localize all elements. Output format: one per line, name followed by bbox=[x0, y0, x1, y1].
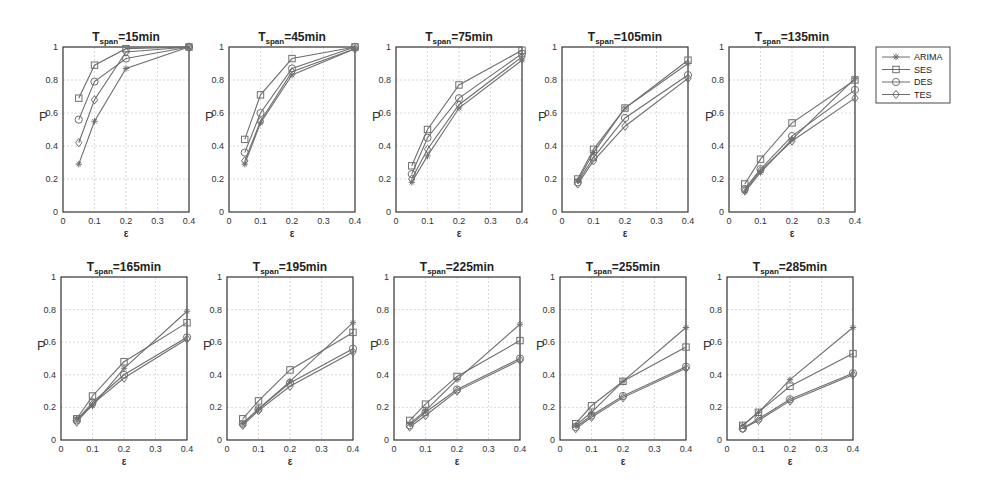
x-tick-label: 0.2 bbox=[617, 444, 630, 454]
y-tick-label: 1 bbox=[552, 42, 557, 52]
series-tes bbox=[575, 74, 692, 188]
y-tick-label: 0.2 bbox=[45, 174, 58, 184]
y-tick-label: 0.4 bbox=[709, 370, 722, 380]
y-tick-label: 0 bbox=[217, 435, 222, 445]
figure-grid: 00.10.20.30.400.20.40.60.81PεTspan=15min… bbox=[0, 0, 991, 495]
y-tick-label: 0.4 bbox=[43, 370, 56, 380]
y-tick-label: 0.8 bbox=[709, 305, 722, 315]
subplot-title: Tspan=135min bbox=[755, 30, 829, 46]
y-tick-label: 0.2 bbox=[209, 402, 222, 412]
series-arima bbox=[575, 60, 692, 184]
y-tick-label: 0 bbox=[552, 207, 557, 217]
series-line bbox=[77, 311, 187, 419]
series-des bbox=[572, 363, 689, 431]
series-arima bbox=[242, 45, 359, 167]
y-tick-label: 0.2 bbox=[709, 402, 722, 412]
x-tick-label: 0.2 bbox=[619, 216, 632, 226]
series-arima bbox=[407, 321, 524, 427]
y-tick-label: 0.8 bbox=[376, 305, 389, 315]
x-tick-label: 0.2 bbox=[286, 216, 299, 226]
y-tick-label: 1 bbox=[719, 42, 724, 52]
series-line bbox=[410, 360, 520, 427]
x-axis-label: ε bbox=[788, 456, 793, 467]
series-des bbox=[741, 86, 858, 192]
x-axis-label: ε bbox=[621, 456, 626, 467]
subplot-title: Tspan=75min bbox=[425, 30, 493, 46]
series-line bbox=[245, 47, 355, 139]
x-tick-label: 0 bbox=[60, 216, 65, 226]
y-axis-label: P bbox=[39, 109, 48, 124]
star-marker-icon bbox=[184, 308, 190, 314]
x-axis-label: ε bbox=[290, 228, 295, 239]
series-ses bbox=[740, 350, 857, 428]
series-line bbox=[79, 47, 189, 143]
subplot-5: 00.10.20.30.400.20.40.60.81PεTspan=135mi… bbox=[705, 30, 861, 239]
subplot-title: Tspan=195min bbox=[253, 260, 327, 276]
y-tick-label: 0.4 bbox=[45, 141, 58, 151]
y-tick-label: 0.4 bbox=[542, 370, 555, 380]
x-tick-label: 0.1 bbox=[421, 216, 434, 226]
y-tick-label: 0.4 bbox=[211, 141, 224, 151]
y-tick-label: 0.2 bbox=[542, 402, 555, 412]
x-tick-label: 0.2 bbox=[120, 216, 133, 226]
x-tick-label: 0 bbox=[391, 444, 396, 454]
y-axis-label: P bbox=[370, 338, 379, 353]
series-tes bbox=[742, 94, 859, 195]
y-tick-label: 0.4 bbox=[376, 370, 389, 380]
y-tick-label: 1 bbox=[717, 272, 722, 282]
subplot-title: Tspan=285min bbox=[753, 260, 827, 276]
series-line bbox=[745, 98, 855, 190]
x-tick-label: 0.4 bbox=[849, 216, 862, 226]
x-tick-label: 0.3 bbox=[317, 216, 330, 226]
y-tick-label: 0.8 bbox=[43, 305, 56, 315]
x-axis-label: ε bbox=[623, 228, 628, 239]
series-ses bbox=[409, 47, 526, 169]
y-axis-label: P bbox=[703, 338, 712, 353]
x-tick-label: 0.1 bbox=[86, 444, 99, 454]
star-marker-icon bbox=[123, 65, 129, 71]
x-tick-label: 0.1 bbox=[585, 444, 598, 454]
y-tick-label: 0.8 bbox=[209, 305, 222, 315]
star-marker-icon bbox=[91, 118, 97, 124]
y-tick-label: 1 bbox=[386, 42, 391, 52]
x-tick-label: 0.3 bbox=[149, 444, 162, 454]
series-line bbox=[79, 47, 189, 98]
y-tick-label: 0.2 bbox=[544, 174, 557, 184]
series-tes bbox=[242, 44, 359, 165]
legend-label: ARIMA bbox=[914, 52, 943, 62]
x-tick-label: 0 bbox=[557, 444, 562, 454]
series-arima bbox=[409, 57, 526, 186]
series-line bbox=[412, 60, 522, 182]
y-axis-label: P bbox=[705, 109, 714, 124]
subplot-1: 00.10.20.30.400.20.40.60.81PεTspan=15min bbox=[39, 30, 195, 239]
star-marker-icon bbox=[893, 54, 899, 60]
x-tick-label: 0.2 bbox=[784, 444, 797, 454]
x-tick-label: 0.4 bbox=[680, 444, 693, 454]
x-axis-label: ε bbox=[457, 228, 462, 239]
y-axis-label: P bbox=[372, 109, 381, 124]
x-tick-label: 0.1 bbox=[254, 216, 267, 226]
legend-label: TES bbox=[914, 90, 932, 100]
y-tick-label: 1 bbox=[384, 272, 389, 282]
y-axis-label: P bbox=[203, 338, 212, 353]
y-tick-label: 0.2 bbox=[43, 402, 56, 412]
subplot-3: 00.10.20.30.400.20.40.60.81PεTspan=75min bbox=[372, 30, 528, 239]
x-tick-label: 0.1 bbox=[752, 444, 765, 454]
x-tick-label: 0.3 bbox=[648, 444, 661, 454]
series-line bbox=[743, 375, 853, 429]
y-tick-label: 1 bbox=[51, 272, 56, 282]
x-tick-label: 0 bbox=[393, 216, 398, 226]
series-line bbox=[578, 78, 688, 184]
y-tick-label: 0 bbox=[550, 435, 555, 445]
y-axis-label: P bbox=[538, 109, 547, 124]
x-tick-label: 0 bbox=[226, 216, 231, 226]
subplot-7: 00.10.20.30.400.20.40.60.81PεTspan=195mi… bbox=[203, 260, 359, 467]
series-tes bbox=[74, 335, 191, 427]
y-tick-label: 0 bbox=[384, 435, 389, 445]
series-tes bbox=[240, 348, 357, 430]
x-tick-label: 0 bbox=[559, 216, 564, 226]
subplot-8: 00.10.20.30.400.20.40.60.81PεTspan=225mi… bbox=[370, 260, 526, 467]
x-tick-label: 0.1 bbox=[88, 216, 101, 226]
x-axis-label: ε bbox=[124, 228, 129, 239]
subplot-title: Tspan=45min bbox=[258, 30, 326, 46]
